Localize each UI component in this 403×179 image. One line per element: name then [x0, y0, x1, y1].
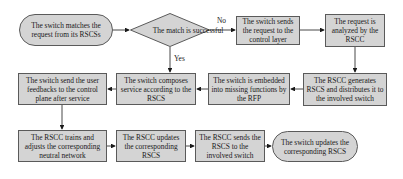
node-decision: The match is successful [130, 13, 210, 47]
edge-label-yes: Yes [174, 54, 185, 63]
node-analyzed: The request is analyzed by the RSCC [325, 14, 385, 47]
node-sends-rscs: The RSCC sends the RSCS to the involved … [195, 130, 265, 162]
node-generates: The RSCC generates RSCS and distributes … [303, 73, 387, 106]
node-feedback: The switch send the user feedbacks to th… [18, 73, 107, 105]
node-updates: The RSCC updates the corresponding RSCS [116, 130, 186, 162]
node-end: The switch updates the corresponding RSC… [272, 131, 358, 162]
node-embedded: The switch is embedded into missing func… [208, 73, 290, 105]
node-composes: The switch composes service according to… [116, 73, 196, 105]
node-trains: The RSCC trains and adjusts the correspo… [18, 130, 107, 162]
node-start: The switch matches the request from its … [19, 14, 113, 46]
node-send-request: The switch sends the request to the cont… [236, 16, 300, 45]
decision-label: The match is successful [130, 13, 246, 47]
edge-label-no: No [217, 16, 226, 25]
